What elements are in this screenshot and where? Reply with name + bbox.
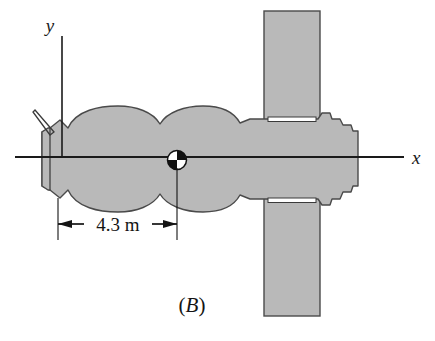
caption-close-paren: ) <box>198 293 205 317</box>
y-axis-label: y <box>44 15 55 36</box>
upper-wing-flap-slot <box>268 117 316 122</box>
figure-container: y x 4.3 m (B) <box>0 0 435 341</box>
caption-letter: B <box>186 293 199 317</box>
aircraft-top-view-diagram: y x 4.3 m (B) <box>0 0 435 341</box>
nose-section <box>42 128 50 190</box>
figure-caption: (B) <box>179 293 206 317</box>
dimension-label: 4.3 m <box>96 214 140 235</box>
caption-open-paren: ( <box>179 293 186 317</box>
dimension-arrowhead-right <box>163 220 177 228</box>
x-axis-label: x <box>411 147 421 168</box>
lower-wing-flap-slot <box>268 198 316 203</box>
dimension-arrowhead-left <box>58 220 72 228</box>
